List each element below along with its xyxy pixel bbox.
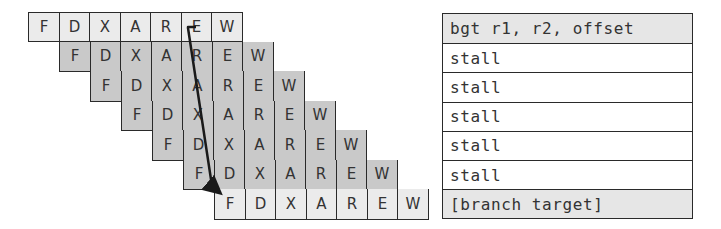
stage-cell-a: A: [275, 160, 307, 191]
stage-cell-f: F: [152, 130, 184, 161]
stage-cell-w: W: [366, 160, 398, 191]
pipeline-diagram: F D X A R E W F D X A R E W F D X A R E …: [0, 0, 440, 229]
stage-cell-a: A: [151, 42, 183, 73]
stage-cell-a: A: [182, 71, 214, 102]
stage-cell-d: D: [183, 130, 215, 161]
stage-cell-e: E: [305, 130, 337, 161]
stage-cell-r: R: [274, 130, 306, 161]
instruction-row-stall: stall: [443, 131, 692, 160]
stage-cell-r: R: [212, 71, 244, 102]
stage-cell-f: F: [214, 189, 246, 220]
stage-cell-x: X: [244, 160, 276, 191]
instruction-row-branch-target: [branch target]: [443, 189, 692, 218]
stage-cell-d: D: [152, 101, 184, 132]
stage-cell-x: X: [182, 101, 214, 132]
pipeline-row-2: F D X A R E W: [90, 71, 305, 100]
instruction-table: bgt r1, r2, offset stall stall stall sta…: [442, 13, 693, 219]
stage-cell-a: A: [306, 189, 338, 220]
instruction-row-stall: stall: [443, 102, 692, 131]
stage-cell-f: F: [28, 12, 60, 42]
stage-cell-r: R: [305, 160, 337, 191]
stage-cell-w: W: [304, 101, 336, 132]
stage-cell-f: F: [183, 160, 215, 191]
pipeline-row-3: F D X A R E W: [121, 101, 336, 130]
stage-cell-x: X: [89, 12, 121, 42]
pipeline-row-5: F D X A R E W: [183, 160, 398, 189]
stage-cell-e: E: [367, 189, 399, 220]
stage-cell-f: F: [59, 42, 91, 73]
stage-cell-w: W: [335, 130, 367, 161]
stage-cell-e: E: [336, 160, 368, 191]
stage-cell-w: W: [273, 71, 305, 102]
stage-cell-d: D: [214, 160, 246, 191]
stage-cell-f: F: [121, 101, 153, 132]
stage-cell-d: D: [245, 189, 277, 220]
stage-cell-e: E: [212, 42, 244, 73]
stage-cell-r: R: [181, 42, 213, 73]
stage-cell-a: A: [244, 130, 276, 161]
stage-cell-a: A: [120, 12, 152, 42]
stage-cell-a: A: [213, 101, 245, 132]
stage-cell-e: E: [243, 71, 275, 102]
pipeline-row-4: F D X A R E W: [152, 130, 367, 159]
stage-cell-w: W: [242, 42, 274, 73]
stage-cell-e: E: [274, 101, 306, 132]
stage-cell-r: R: [336, 189, 368, 220]
instruction-row-branch: bgt r1, r2, offset: [443, 14, 692, 43]
stage-cell-d: D: [121, 71, 153, 102]
instruction-row-stall: stall: [443, 160, 692, 189]
pipeline-row-0: F D X A R E W: [28, 12, 243, 41]
stage-cell-w: W: [211, 12, 243, 42]
stage-cell-x: X: [151, 71, 183, 102]
instruction-row-stall: stall: [443, 72, 692, 101]
stage-cell-d: D: [90, 42, 122, 73]
stage-cell-x: X: [275, 189, 307, 220]
stage-cell-x: X: [213, 130, 245, 161]
stage-cell-r: R: [243, 101, 275, 132]
stage-cell-x: X: [120, 42, 152, 73]
stage-cell-r: R: [150, 12, 182, 42]
pipeline-row-6: F D X A R E W: [214, 189, 429, 218]
instruction-row-stall: stall: [443, 43, 692, 72]
stage-cell-w: W: [397, 189, 429, 220]
stage-cell-d: D: [59, 12, 91, 42]
stage-cell-e: E: [181, 12, 213, 42]
stage-cell-f: F: [90, 71, 122, 102]
pipeline-row-1: F D X A R E W: [59, 42, 274, 71]
